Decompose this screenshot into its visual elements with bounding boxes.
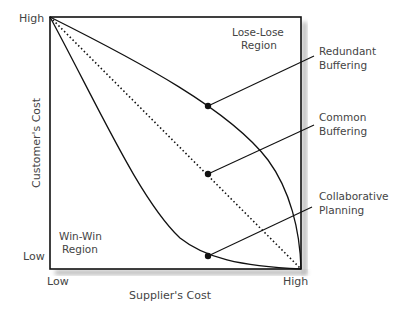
x-high-label: High bbox=[283, 275, 308, 288]
cost-tradeoff-diagram: High Low Low High Supplier's Cost Custom… bbox=[0, 0, 414, 312]
collaborative-planning-point bbox=[205, 253, 211, 259]
collaborative-label-2: Planning bbox=[319, 204, 364, 216]
y-high-label: High bbox=[19, 12, 44, 25]
common-label-2: Buffering bbox=[319, 125, 367, 137]
win-win-label-1: Win-Win bbox=[59, 230, 102, 242]
x-axis-title: Supplier's Cost bbox=[129, 289, 212, 302]
collaborative-label-1: Collaborative bbox=[319, 190, 389, 202]
x-low-label: Low bbox=[47, 275, 69, 288]
callout-line-redundant bbox=[208, 56, 314, 106]
callout-line-common bbox=[208, 125, 314, 174]
lose-lose-label-1: Lose-Lose bbox=[232, 26, 284, 38]
common-buffering-point bbox=[205, 171, 211, 177]
lose-lose-label-2: Region bbox=[241, 39, 277, 51]
redundant-label-1: Redundant bbox=[319, 45, 376, 57]
redundant-label-2: Buffering bbox=[319, 59, 367, 71]
y-axis-title: Customer's Cost bbox=[30, 97, 43, 188]
redundant-buffering-point bbox=[205, 103, 211, 109]
callout-line-collaborative bbox=[208, 207, 312, 256]
common-label-1: Common bbox=[319, 111, 366, 123]
y-low-label: Low bbox=[23, 250, 45, 263]
win-win-label-2: Region bbox=[62, 243, 98, 255]
